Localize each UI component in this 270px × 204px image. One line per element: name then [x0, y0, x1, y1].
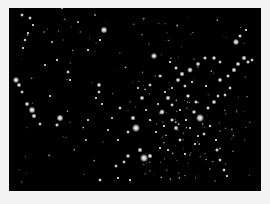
city-light	[28, 106, 35, 113]
city-light	[188, 126, 191, 129]
city-light	[162, 124, 165, 127]
city-light	[94, 96, 97, 99]
city-light	[126, 130, 130, 134]
city-light	[97, 83, 102, 88]
city-light	[130, 115, 135, 120]
city-light	[98, 178, 102, 182]
city-light	[132, 124, 140, 132]
city-light	[192, 110, 196, 114]
city-light	[203, 56, 207, 60]
city-light	[13, 77, 19, 83]
city-light	[97, 90, 101, 94]
city-light	[225, 174, 228, 177]
city-light	[51, 41, 54, 44]
city-light	[23, 38, 27, 42]
city-light	[246, 60, 250, 64]
city-light	[98, 38, 101, 41]
city-light	[21, 46, 24, 49]
city-light	[163, 90, 166, 93]
city-light	[187, 67, 193, 73]
city-light	[236, 62, 241, 67]
city-light	[28, 16, 32, 20]
city-light	[170, 103, 174, 107]
city-light	[31, 23, 34, 26]
city-light	[214, 138, 217, 141]
night-lights-photo: United States at night from space	[9, 8, 261, 191]
city-light	[178, 138, 182, 142]
city-light	[94, 14, 96, 16]
city-light	[61, 8, 64, 9]
city-light	[31, 113, 36, 118]
city-light	[148, 83, 152, 87]
city-light	[140, 154, 148, 162]
city-light	[193, 142, 196, 145]
city-light	[157, 103, 160, 106]
city-light	[147, 153, 152, 158]
city-light	[190, 80, 193, 83]
city-light	[244, 28, 247, 31]
city-light	[66, 70, 70, 74]
city-light	[179, 109, 182, 112]
city-light	[26, 31, 29, 34]
city-light	[228, 86, 232, 90]
city-light	[208, 124, 212, 128]
city-light	[186, 94, 190, 98]
city-light	[151, 53, 157, 59]
city-light	[179, 71, 184, 76]
city-light	[171, 87, 174, 90]
city-light	[194, 100, 198, 104]
city-light	[111, 117, 114, 120]
city-light	[17, 83, 22, 88]
city-lights-layer	[9, 8, 261, 191]
city-light	[212, 56, 216, 60]
city-light	[215, 148, 219, 152]
city-light	[118, 106, 122, 110]
city-light	[55, 123, 59, 127]
city-light	[168, 60, 171, 63]
city-light	[20, 13, 24, 17]
city-light	[170, 118, 174, 122]
city-light	[128, 178, 131, 181]
city-light	[250, 58, 254, 62]
city-light	[148, 118, 151, 121]
city-light	[238, 34, 242, 38]
city-light	[216, 94, 220, 98]
city-light	[77, 21, 80, 24]
city-light	[100, 102, 103, 105]
city-light	[85, 139, 88, 142]
city-light	[140, 96, 145, 101]
city-light	[20, 90, 24, 94]
city-light	[86, 118, 89, 121]
city-light	[38, 122, 42, 126]
city-light	[166, 148, 169, 151]
city-light	[223, 93, 227, 97]
city-light	[114, 164, 118, 168]
city-light	[116, 176, 119, 179]
city-light	[174, 66, 178, 70]
city-light	[176, 78, 181, 83]
city-light	[117, 139, 120, 142]
city-light	[218, 158, 222, 162]
city-light	[56, 114, 63, 121]
city-light	[226, 74, 230, 78]
city-light	[154, 130, 157, 133]
city-light	[100, 26, 107, 33]
city-light	[196, 62, 201, 67]
city-light	[202, 132, 206, 136]
city-light	[25, 102, 30, 107]
city-light	[241, 55, 246, 60]
city-light	[231, 67, 236, 72]
city-light	[48, 94, 51, 97]
city-light	[233, 39, 239, 45]
city-light	[137, 87, 140, 90]
city-light	[206, 106, 210, 110]
city-light	[197, 135, 200, 138]
city-light	[55, 58, 58, 61]
city-light	[165, 95, 170, 100]
city-light	[222, 168, 226, 172]
city-light	[145, 109, 148, 112]
city-light	[204, 84, 207, 87]
city-light	[68, 78, 71, 81]
city-light	[184, 118, 187, 121]
city-light	[126, 154, 130, 158]
